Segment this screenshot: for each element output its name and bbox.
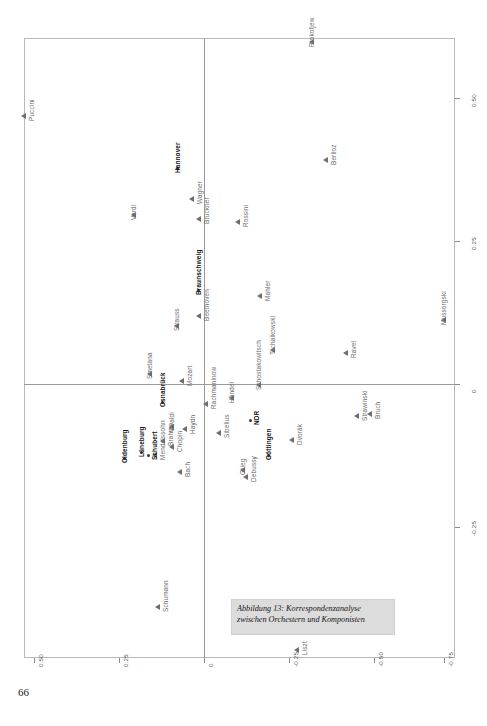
triangle-marker-icon: [196, 313, 201, 319]
data-point-label: Händel: [228, 382, 235, 403]
data-point-label: Braunschweig: [195, 250, 202, 295]
tick-right: [455, 241, 460, 242]
triangle-marker-icon: [323, 157, 328, 163]
data-point-label: Debussy: [250, 456, 257, 482]
data-point-label: Verdi: [130, 205, 137, 220]
data-point-label: Dvorák: [296, 424, 303, 445]
data-point-label: Sibelius: [223, 414, 230, 438]
triangle-marker-icon: [177, 469, 182, 475]
tick-label-bottom: -0.75: [447, 652, 454, 667]
document-page: 0.500.250-0.25-0.50-0.750.500.250-0.25Pu…: [0, 0, 487, 726]
data-point-label: Oldenburg: [121, 429, 128, 463]
data-point-label: Bruch: [374, 402, 381, 419]
triangle-marker-icon: [203, 401, 208, 407]
triangle-marker-icon: [367, 411, 372, 417]
tick-right: [455, 98, 460, 99]
triangle-marker-icon: [243, 474, 248, 480]
data-point-label: Smetana: [146, 352, 153, 379]
tick-label-right: 0: [470, 389, 477, 393]
axis-vertical-zero: [204, 38, 205, 658]
data-point-label: Prokofjew: [308, 18, 315, 47]
data-point-label: Schostakowitsch: [255, 340, 262, 390]
triangle-marker-icon: [147, 454, 150, 457]
tick-bottom: [34, 658, 35, 663]
axis-horizontal-zero: [24, 384, 455, 385]
tick-label-bottom: -0.25: [292, 652, 299, 667]
data-point-label: Ravel: [350, 341, 357, 358]
data-point-label: Bruckner: [203, 197, 210, 224]
data-point-label: Puccini: [28, 99, 35, 121]
tick-label-right: 0.50: [470, 94, 477, 107]
triangle-marker-icon: [235, 219, 240, 225]
figure-caption: Abbildung 13: Korrespondenzanalyse zwisc…: [237, 603, 395, 625]
triangle-marker-icon: [289, 437, 294, 443]
tick-bottom: [374, 658, 375, 663]
data-point-label: Mussorgski: [440, 291, 447, 325]
triangle-marker-icon: [155, 604, 160, 610]
data-point-label: Osnabrück: [159, 372, 166, 407]
triangle-marker-icon: [196, 216, 201, 222]
tick-label-bottom: 0.50: [37, 654, 44, 667]
data-point-label: Liszt: [301, 641, 308, 655]
data-point-label: Mahler: [264, 281, 271, 301]
tick-bottom: [444, 658, 445, 663]
data-point-label: Rossini: [242, 205, 249, 227]
tick-label-bottom: -0.50: [377, 652, 384, 667]
tick-label-bottom: 0: [207, 663, 214, 667]
data-point-label: Mozart: [186, 366, 193, 386]
caption-line-2: zwischen Orchestern und Komponisten: [237, 614, 395, 625]
data-point-label: Wagner: [196, 181, 203, 204]
triangle-marker-icon: [343, 350, 348, 356]
data-point-label: Berlioz: [330, 144, 337, 165]
data-point-label: Rachmaninow: [210, 367, 217, 409]
triangle-marker-icon: [179, 378, 184, 384]
triangle-marker-icon: [216, 430, 221, 436]
triangle-marker-icon: [354, 413, 359, 419]
triangle-marker-icon: [257, 293, 262, 299]
data-point-label: NDR: [253, 411, 260, 425]
caption-line-1: Abbildung 13: Korrespondenzanalyse: [237, 603, 395, 614]
data-point-label: Haydn: [189, 415, 196, 434]
tick-label-right: 0.25: [470, 237, 477, 250]
triangle-marker-icon: [249, 419, 252, 422]
tick-right: [455, 384, 460, 385]
data-point-label: Strauss: [173, 308, 180, 331]
page-number: 66: [18, 686, 29, 698]
tick-right: [455, 527, 460, 528]
data-point-label: Hannover: [174, 142, 181, 173]
data-point-label: Göttingen: [265, 428, 272, 460]
data-point-label: Chopin: [176, 431, 183, 452]
data-point-label: Brahms: [167, 423, 174, 446]
plot-frame: [24, 38, 455, 658]
data-point-label: Bach: [184, 462, 191, 477]
tick-bottom: [289, 658, 290, 663]
data-point-label: Grieg: [239, 459, 246, 475]
triangle-marker-icon: [21, 113, 26, 119]
data-point-label: Schubert: [151, 431, 158, 460]
triangle-marker-icon: [189, 196, 194, 202]
triangle-marker-icon: [294, 647, 299, 653]
data-point-label: Beethoven: [203, 289, 210, 321]
tick-label-bottom: 0.25: [122, 654, 129, 667]
data-point-label: Lüneburg: [138, 426, 145, 457]
data-point-label: Tschaikowski: [269, 316, 276, 355]
tick-bottom: [119, 658, 120, 663]
tick-label-right: -0.25: [470, 521, 477, 536]
data-point-label: Schumann: [162, 580, 169, 612]
triangle-marker-icon: [169, 444, 174, 450]
data-point-label: Mendelssohn: [159, 420, 166, 460]
tick-bottom: [204, 658, 205, 663]
